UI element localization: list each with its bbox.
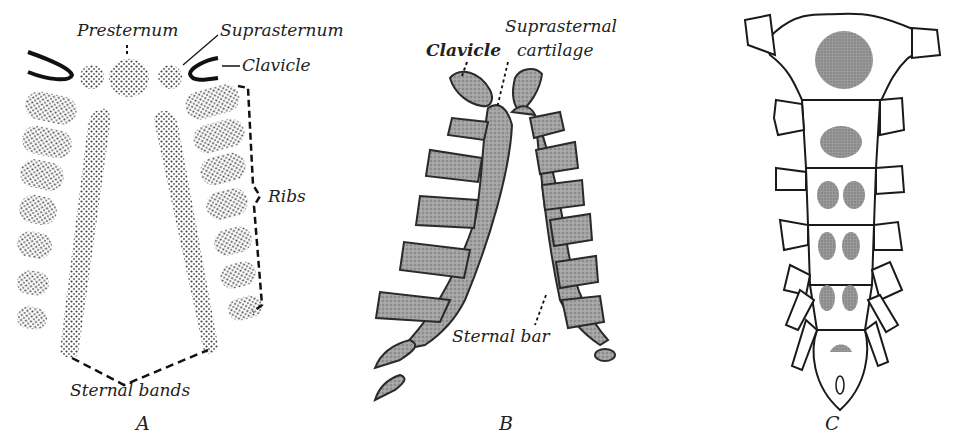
panel-b-drawing bbox=[370, 0, 640, 447]
ossification-center-5b bbox=[842, 285, 858, 311]
panel-letter-b: B bbox=[499, 412, 513, 434]
panel-a: Presternum Suprasternum Clavicle Ribs St… bbox=[0, 0, 370, 447]
ossification-center-4a bbox=[818, 232, 836, 260]
clavicle-right-shape bbox=[190, 58, 218, 80]
label-suprasternal: Suprasternal bbox=[505, 16, 617, 36]
ossification-center-2 bbox=[820, 126, 862, 158]
clavicle-left-shape bbox=[28, 52, 72, 79]
label-presternum: Presternum bbox=[77, 20, 178, 40]
suprasternum-left-shape bbox=[80, 65, 104, 89]
ossification-center-4b bbox=[842, 232, 860, 260]
panel-c: C bbox=[740, 0, 964, 447]
label-clavicle-a: Clavicle bbox=[242, 55, 311, 75]
label-cartilage: cartilage bbox=[517, 40, 594, 60]
label-suprasternum: Suprasternum bbox=[220, 20, 344, 40]
label-ribs: Ribs bbox=[268, 186, 306, 206]
panel-letter-c: C bbox=[825, 412, 840, 434]
suprasternum-right-shape bbox=[158, 65, 182, 89]
ossification-center-5a bbox=[819, 285, 835, 311]
panel-c-drawing bbox=[740, 0, 964, 447]
ossification-center-3b bbox=[843, 181, 865, 209]
panel-letter-a: A bbox=[136, 412, 150, 434]
label-clavicle-b: Clavicle bbox=[426, 40, 501, 60]
ossification-center-1 bbox=[815, 31, 873, 89]
panel-b: Clavicle Suprasternal cartilage Sternal … bbox=[370, 0, 640, 447]
label-sternal-bands: Sternal bands bbox=[70, 380, 190, 400]
presternum-shape bbox=[109, 59, 149, 97]
label-sternal-bar: Sternal bar bbox=[452, 326, 550, 346]
ossification-center-3a bbox=[817, 181, 839, 209]
